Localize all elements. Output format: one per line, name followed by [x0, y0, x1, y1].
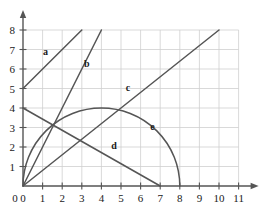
y-tick-label: 2 [10, 141, 16, 153]
x-tick-label: 7 [157, 192, 163, 204]
y-tick-label: 5 [10, 83, 16, 95]
y-tick-label: 6 [10, 63, 16, 75]
curve-label-d: d [111, 140, 117, 151]
x-tick-label: 4 [99, 192, 105, 204]
y-tick-label: 8 [10, 24, 16, 36]
y-tick-label: 4 [10, 102, 16, 114]
x-tick-label: 0 [20, 192, 26, 204]
x-tick-label: 8 [177, 192, 183, 204]
origin-label: 0 [12, 192, 18, 204]
x-tick-label: 9 [197, 192, 203, 204]
curve-label-a: a [43, 46, 48, 57]
x-tick-label: 10 [214, 192, 226, 204]
x-tick-label: 6 [138, 192, 144, 204]
plot-background [0, 0, 264, 210]
cartesian-plot: 01234567891011123456780 abcde [0, 0, 264, 210]
x-tick-label: 2 [59, 192, 65, 204]
y-tick-label: 3 [10, 122, 16, 134]
x-tick-label: 3 [79, 192, 85, 204]
x-tick-label: 1 [40, 192, 46, 204]
curve-label-b: b [84, 58, 90, 69]
chart-container: 01234567891011123456780 abcde [0, 0, 264, 210]
curve-label-e: e [150, 121, 155, 132]
curve-label-c: c [126, 82, 131, 93]
x-tick-label: 11 [233, 192, 244, 204]
x-tick-label: 5 [118, 192, 124, 204]
y-tick-label: 1 [10, 161, 16, 173]
y-tick-label: 7 [10, 44, 16, 56]
